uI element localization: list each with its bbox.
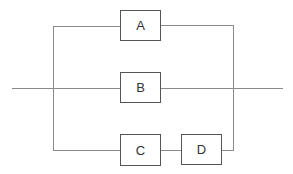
block-a-label: A	[136, 18, 145, 33]
block-c: C	[120, 134, 161, 166]
right-bus	[233, 25, 234, 151]
branch-a-right	[161, 25, 234, 26]
input-line	[12, 88, 120, 89]
block-b: B	[120, 72, 161, 103]
branch-cd-right	[222, 150, 234, 151]
left-bus	[53, 26, 54, 151]
block-d-label: D	[197, 142, 206, 157]
block-b-label: B	[136, 80, 145, 95]
block-a: A	[120, 10, 161, 41]
branch-a-left	[53, 26, 120, 27]
branch-cd-left	[53, 150, 120, 151]
block-d: D	[181, 134, 222, 165]
output-line	[161, 88, 283, 89]
block-c-label: C	[136, 143, 145, 158]
c-d-connector	[161, 150, 181, 151]
